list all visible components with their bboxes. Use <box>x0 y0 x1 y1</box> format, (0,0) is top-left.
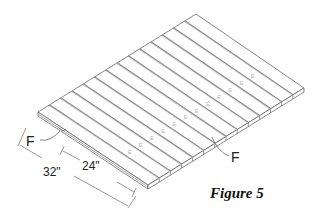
deck-panel-figure: EEEEEEEEEEEE F F 24" 32" Figure 5 <box>0 0 321 222</box>
edge-mark: E <box>139 142 143 148</box>
edge-mark: E <box>217 94 221 100</box>
figure-caption: Figure 5 <box>209 185 264 201</box>
edge-mark: E <box>161 128 165 134</box>
edge-mark: E <box>150 135 154 141</box>
fastener-label-right: F <box>231 149 240 165</box>
edge-mark: E <box>206 101 210 107</box>
edge-mark: E <box>239 80 243 86</box>
deck-panel: EEEEEEEEEEEE <box>38 14 304 189</box>
dimension-label-overall: 32" <box>43 165 61 179</box>
edge-mark: E <box>172 121 176 127</box>
edge-mark: E <box>184 114 188 120</box>
edge-mark: E <box>128 149 132 155</box>
edge-mark: E <box>195 108 199 114</box>
dimension-label-inner: 24" <box>82 159 100 173</box>
edge-mark: E <box>228 87 232 93</box>
edge-mark: E <box>251 73 255 79</box>
fastener-label-left: F <box>26 133 35 149</box>
